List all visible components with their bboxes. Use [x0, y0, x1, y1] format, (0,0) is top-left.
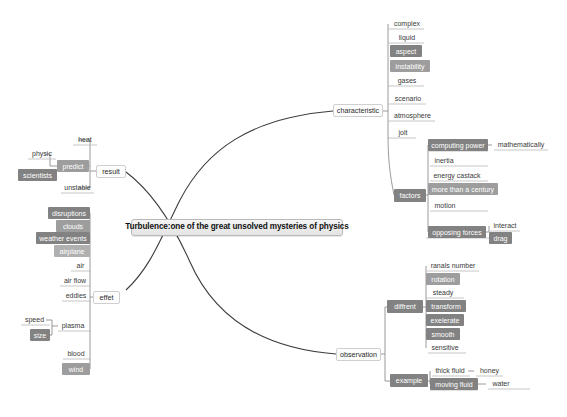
- node-scenario[interactable]: scenario: [390, 93, 426, 104]
- node-eddies[interactable]: eddies: [62, 290, 90, 301]
- node-factors[interactable]: factors: [394, 189, 426, 202]
- node-rotation[interactable]: rotation: [426, 273, 460, 285]
- node-transform[interactable]: transform: [426, 300, 466, 312]
- node-example[interactable]: example: [390, 374, 428, 387]
- node-heat[interactable]: heat: [73, 134, 97, 145]
- node-exelerate[interactable]: exelerate: [426, 314, 464, 326]
- branch-effet[interactable]: effet: [93, 291, 120, 304]
- node-clouds[interactable]: clouds: [56, 220, 90, 232]
- node-blood[interactable]: blood: [63, 348, 89, 359]
- node-gases[interactable]: gases: [390, 75, 424, 86]
- node-disruptions[interactable]: disruptions: [48, 207, 90, 219]
- branch-result[interactable]: result: [96, 165, 126, 178]
- node-motion[interactable]: motion: [430, 200, 460, 211]
- node-liquid[interactable]: liquid: [390, 32, 424, 43]
- node-weather-events[interactable]: weather events: [36, 232, 90, 244]
- node-air-flow[interactable]: air flow: [60, 275, 90, 286]
- node-mathematically[interactable]: mathematically: [494, 139, 548, 150]
- node-computing-power[interactable]: computing power: [428, 139, 488, 151]
- node-predict[interactable]: predict: [57, 160, 89, 172]
- node-sensitive[interactable]: sensitive: [428, 342, 462, 353]
- node-airplane[interactable]: airplane: [54, 245, 90, 257]
- node-energy-castack[interactable]: energy castack: [430, 170, 484, 181]
- node-smooth[interactable]: smooth: [426, 328, 460, 340]
- node-instability[interactable]: instability: [390, 60, 430, 72]
- node-drag[interactable]: drag: [489, 232, 512, 244]
- node-jolt[interactable]: jolt: [390, 127, 416, 138]
- node-opposing-forces[interactable]: opposing forces: [428, 226, 486, 238]
- node-diffrent[interactable]: diffrent: [387, 300, 423, 313]
- mindmap-canvas: Turbulence:one of the great unsolved mys…: [0, 0, 567, 417]
- node-ranals-number[interactable]: ranals number: [427, 260, 479, 271]
- node-moving-fluid[interactable]: moving fluid: [430, 378, 478, 390]
- node-size[interactable]: size: [30, 329, 50, 341]
- root-node[interactable]: Turbulence:one of the great unsolved mys…: [131, 219, 343, 236]
- node-honey[interactable]: honey: [476, 365, 503, 376]
- node-more-than-a-century[interactable]: more than a century: [428, 183, 498, 195]
- node-air[interactable]: air: [71, 260, 90, 271]
- node-scientists[interactable]: scientists: [18, 169, 57, 181]
- branch-observation[interactable]: observation: [336, 348, 381, 361]
- node-plasma[interactable]: plasma: [58, 320, 88, 331]
- node-wind[interactable]: wind: [62, 363, 90, 375]
- node-atmosphere[interactable]: atmosphere: [390, 110, 435, 121]
- branch-characteristic[interactable]: characteristic: [333, 104, 383, 117]
- node-interact[interactable]: interact: [490, 220, 520, 231]
- node-physic[interactable]: physic: [28, 148, 56, 159]
- node-complex[interactable]: complex: [390, 18, 424, 29]
- node-aspect[interactable]: aspect: [390, 45, 422, 57]
- node-steady[interactable]: steady: [428, 287, 458, 298]
- node-water[interactable]: water: [488, 378, 514, 389]
- node-thick-fluid[interactable]: thick fluid: [432, 365, 468, 376]
- node-speed[interactable]: speed: [21, 314, 48, 325]
- node-inertia[interactable]: inertia: [430, 155, 458, 166]
- node-unstable[interactable]: unstable: [61, 182, 94, 193]
